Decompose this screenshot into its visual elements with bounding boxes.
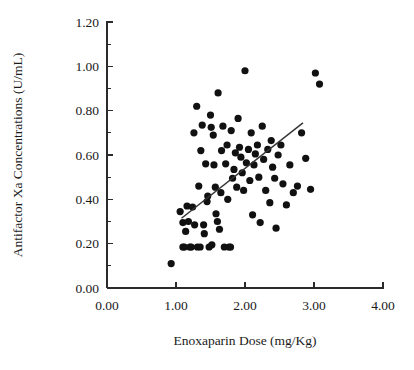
x-axis-title: Enoxaparin Dose (mg/Kg) — [173, 333, 316, 348]
data-point — [200, 221, 207, 228]
data-point — [191, 221, 198, 228]
data-point — [259, 123, 266, 130]
data-point — [202, 160, 209, 167]
scatter-chart-figure: 0.000.200.400.600.801.001.20 0.001.002.0… — [0, 0, 414, 370]
chart-canvas: 0.000.200.400.600.801.001.20 0.001.002.0… — [0, 0, 414, 370]
data-point — [252, 150, 259, 157]
data-point — [269, 164, 276, 171]
x-axis-tick-labels: 0.001.002.003.004.00 — [95, 298, 395, 313]
data-point — [257, 219, 264, 226]
data-point — [245, 146, 252, 153]
data-point — [294, 182, 301, 189]
y-tick-label: 0.40 — [75, 192, 99, 207]
data-point — [219, 123, 226, 130]
data-point — [237, 154, 244, 161]
y-tick-label: 0.80 — [75, 103, 99, 118]
data-point — [218, 147, 225, 154]
data-point — [208, 124, 215, 131]
data-point — [201, 230, 208, 237]
data-point — [271, 175, 278, 182]
data-point — [199, 121, 206, 128]
x-tick-label: 4.00 — [371, 298, 395, 313]
data-point — [214, 218, 221, 225]
data-point — [214, 89, 221, 96]
data-point — [210, 131, 217, 138]
data-point — [235, 115, 242, 122]
data-point — [216, 226, 223, 233]
data-point — [286, 161, 293, 168]
data-point — [185, 218, 192, 225]
data-point — [212, 210, 219, 217]
data-point — [275, 151, 282, 158]
data-point — [168, 260, 175, 267]
data-point — [207, 112, 214, 119]
y-tick-label: 1.20 — [75, 15, 99, 30]
data-point — [255, 174, 262, 181]
data-point — [230, 166, 237, 173]
data-point — [290, 189, 297, 196]
data-point — [316, 80, 323, 87]
data-point — [260, 156, 267, 163]
data-point — [188, 243, 195, 250]
data-point — [233, 184, 240, 191]
y-tick-label: 0.00 — [75, 281, 99, 296]
data-point — [249, 211, 256, 218]
data-point — [240, 187, 247, 194]
x-tick-label: 0.00 — [95, 298, 119, 313]
data-point — [312, 69, 319, 76]
data-point — [283, 201, 290, 208]
x-tick-label: 2.00 — [233, 298, 257, 313]
x-tick-label: 3.00 — [302, 298, 326, 313]
y-tick-label: 0.60 — [75, 148, 99, 163]
data-point — [268, 137, 275, 144]
data-point — [307, 186, 314, 193]
y-tick-label: 1.00 — [75, 59, 99, 74]
data-point — [254, 141, 261, 148]
data-point — [228, 127, 235, 134]
data-point — [227, 243, 234, 250]
data-point — [224, 196, 231, 203]
y-tick-label: 0.20 — [75, 236, 99, 251]
y-axis-tick-labels: 0.000.200.400.600.801.001.20 — [75, 15, 99, 296]
data-point — [223, 141, 230, 148]
data-point — [222, 160, 229, 167]
data-point — [190, 129, 197, 136]
data-point — [241, 67, 248, 74]
x-axis-ticks — [176, 282, 383, 288]
axes — [107, 22, 383, 288]
data-point — [236, 144, 243, 151]
data-point — [248, 129, 255, 136]
data-point — [298, 129, 305, 136]
data-point — [266, 199, 273, 206]
data-point — [197, 243, 204, 250]
data-point — [197, 147, 204, 154]
data-point — [302, 155, 309, 162]
y-axis-title: Antifactor Xa Concentrations (U/mL) — [10, 53, 25, 257]
data-point — [210, 161, 217, 168]
data-point — [272, 225, 279, 232]
data-point — [195, 182, 202, 189]
data-point — [262, 187, 269, 194]
data-point — [193, 103, 200, 110]
data-point — [182, 228, 189, 235]
x-tick-label: 1.00 — [164, 298, 188, 313]
y-axis-ticks — [107, 22, 113, 288]
data-point — [208, 241, 215, 248]
data-point — [246, 177, 253, 184]
data-point — [279, 180, 286, 187]
data-point — [177, 208, 184, 215]
